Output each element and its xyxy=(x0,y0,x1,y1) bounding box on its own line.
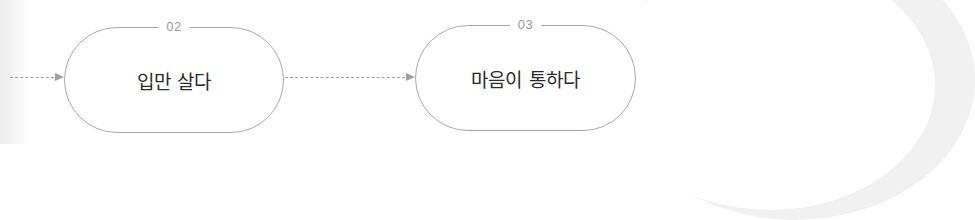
step-node-02: 02 입만 살다 xyxy=(64,27,284,133)
incoming-arrow-head-icon xyxy=(55,73,64,81)
incoming-arrow-line xyxy=(10,77,54,78)
step-node-03: 03 마음이 통하다 xyxy=(415,25,636,131)
connector-arrow-head-icon xyxy=(406,73,415,81)
connector-arrow-line xyxy=(285,77,405,78)
step-label: 마음이 통하다 xyxy=(416,65,635,92)
step-number: 03 xyxy=(510,17,541,33)
step-number: 02 xyxy=(158,19,189,35)
step-label: 입만 살다 xyxy=(65,67,283,94)
background-shade-left xyxy=(0,0,30,144)
